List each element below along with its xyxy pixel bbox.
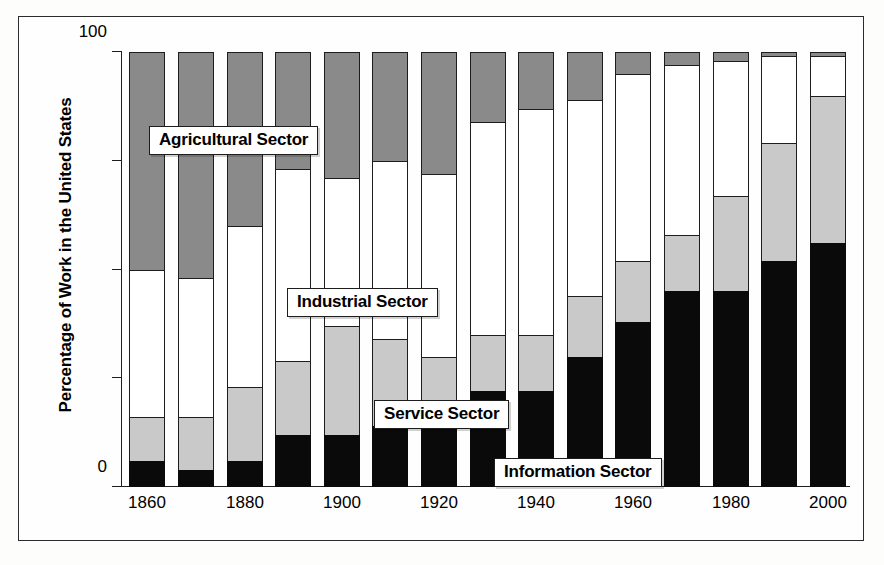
bar-1970[interactable]	[664, 52, 700, 487]
bar-segment-service-1940	[518, 335, 554, 392]
bar-segment-service-1990	[761, 143, 797, 260]
bar-segment-info-1870	[178, 470, 214, 487]
y-axis-tick	[112, 486, 122, 487]
bar-segment-info-1880	[227, 461, 263, 487]
y-axis-tick	[112, 269, 122, 270]
bar-segment-industrial-1980	[713, 61, 749, 196]
bar-segment-info-2000	[810, 243, 846, 487]
bar-segment-agricultural-1970	[664, 52, 700, 65]
information-callout: Information Sector	[494, 458, 662, 487]
y-axis-line	[121, 52, 122, 487]
bar-segment-industrial-1890	[275, 169, 311, 360]
bar-segment-info-1990	[761, 261, 797, 487]
bar-segment-info-1860	[129, 461, 165, 487]
plot-area: 0100 18601880190019201940196019802000 Ag…	[121, 52, 850, 487]
y-axis-tick-label: 100	[79, 22, 107, 42]
bar-segment-agricultural-1860	[129, 52, 165, 270]
bar-segment-service-1960	[615, 261, 651, 322]
bar-segment-industrial-1960	[615, 74, 651, 261]
bar-segment-service-1930	[470, 335, 506, 392]
bar-2000[interactable]	[810, 52, 846, 487]
bar-segment-industrial-1950	[567, 100, 603, 296]
y-axis-tick-label: 0	[98, 457, 107, 477]
bar-segment-industrial-1990	[761, 56, 797, 143]
bar-1880[interactable]	[227, 52, 263, 487]
bar-segment-industrial-1920	[421, 174, 457, 357]
x-axis-tick-label: 1980	[712, 493, 750, 513]
bar-segment-industrial-1970	[664, 65, 700, 235]
y-axis-title: Percentage of Work in the United States	[56, 45, 76, 465]
bar-segment-agricultural-1930	[470, 52, 506, 122]
agricultural-callout: Agricultural Sector	[149, 126, 318, 155]
y-axis-tick	[112, 377, 122, 378]
x-axis-tick-label: 1960	[614, 493, 652, 513]
x-axis-tick-label: 1920	[420, 493, 458, 513]
bar-segment-info-1970	[664, 291, 700, 487]
bar-segment-info-1980	[713, 291, 749, 487]
bar-segment-industrial-1930	[470, 122, 506, 335]
bar-segment-industrial-2000	[810, 56, 846, 95]
bar-1900[interactable]	[324, 52, 360, 487]
x-axis-tick-label: 2000	[809, 493, 847, 513]
service-callout: Service Sector	[374, 400, 509, 429]
industrial-callout: Industrial Sector	[287, 288, 438, 317]
bar-segment-info-1910	[372, 426, 408, 487]
bar-1940[interactable]	[518, 52, 554, 487]
x-axis-tick-label: 1880	[226, 493, 264, 513]
bar-segment-industrial-1880	[227, 226, 263, 387]
bar-segment-service-1860	[129, 417, 165, 461]
bar-1860[interactable]	[129, 52, 165, 487]
bar-segment-agricultural-1950	[567, 52, 603, 100]
bar-segment-industrial-1860	[129, 270, 165, 418]
bar-segment-agricultural-1990	[761, 52, 797, 56]
bar-segment-agricultural-1870	[178, 52, 214, 278]
bar-segment-agricultural-1920	[421, 52, 457, 174]
bar-segment-agricultural-1900	[324, 52, 360, 178]
bar-segment-agricultural-1960	[615, 52, 651, 74]
bar-segment-industrial-1870	[178, 278, 214, 417]
bar-segment-service-2000	[810, 96, 846, 244]
bar-1990[interactable]	[761, 52, 797, 487]
bar-1980[interactable]	[713, 52, 749, 487]
bar-segment-service-1880	[227, 387, 263, 461]
bar-segment-agricultural-1910	[372, 52, 408, 161]
bar-segment-industrial-1940	[518, 109, 554, 335]
bar-segment-service-1970	[664, 235, 700, 292]
x-axis-tick-label: 1940	[517, 493, 555, 513]
y-axis-tick	[112, 160, 122, 161]
bar-segment-service-1980	[713, 196, 749, 292]
bar-segment-agricultural-2000	[810, 52, 846, 56]
bar-1870[interactable]	[178, 52, 214, 487]
figure: Percentage of Work in the United States …	[0, 0, 884, 565]
x-axis-tick-label: 1900	[323, 493, 361, 513]
bar-1960[interactable]	[615, 52, 651, 487]
bar-segment-service-1950	[567, 296, 603, 357]
y-axis-tick	[112, 51, 122, 52]
bar-1950[interactable]	[567, 52, 603, 487]
bar-segment-service-1870	[178, 417, 214, 469]
bar-segment-info-1890	[275, 435, 311, 487]
bar-segment-service-1890	[275, 361, 311, 435]
bar-1890[interactable]	[275, 52, 311, 487]
bar-segment-agricultural-1940	[518, 52, 554, 109]
bar-segment-service-1900	[324, 326, 360, 435]
bar-segment-agricultural-1980	[713, 52, 749, 61]
bar-segment-info-1900	[324, 435, 360, 487]
x-axis-tick-label: 1860	[128, 493, 166, 513]
